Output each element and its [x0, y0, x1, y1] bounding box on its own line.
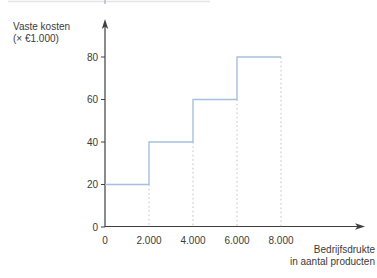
step-chart: 02040608002.0004.0006.0008.000 Vaste kos…: [0, 0, 377, 278]
y-axis-title-line2: (× €1.000): [13, 33, 59, 44]
x-tick-label: 8.000: [268, 235, 293, 246]
y-axis-title-line1: Vaste kosten: [13, 21, 70, 32]
step-line: [105, 57, 281, 185]
x-tick-label: 2.000: [136, 235, 161, 246]
chart-plot-area: 02040608002.0004.0006.0008.000: [87, 52, 294, 247]
x-axis-title-line1: Bedrijfsdrukte: [314, 244, 376, 255]
y-tick-label: 80: [87, 52, 99, 63]
x-tick-label: 0: [102, 235, 108, 246]
y-tick-label: 0: [92, 222, 98, 233]
x-tick-label: 4.000: [180, 235, 205, 246]
y-tick-label: 60: [87, 94, 99, 105]
x-axis-title-line2: in aantal producten: [290, 256, 375, 267]
x-tick-label: 6.000: [224, 235, 249, 246]
y-tick-label: 20: [87, 179, 99, 190]
figure: 02040608002.0004.0006.0008.000 Vaste kos…: [0, 0, 377, 278]
y-tick-label: 40: [87, 137, 99, 148]
